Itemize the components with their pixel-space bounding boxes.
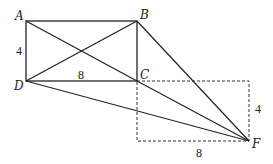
geometry-diagram: A B C D F 4 8 4 8	[0, 0, 273, 164]
dimension-label-right: 4	[255, 102, 261, 116]
point-label-c: C	[140, 68, 149, 82]
dimension-label-bottom: 8	[196, 146, 202, 160]
dimension-label-dc: 8	[78, 68, 84, 82]
point-label-f: F	[251, 137, 261, 151]
point-label-b: B	[139, 8, 149, 22]
point-label-d: D	[13, 79, 24, 93]
point-label-a: A	[14, 9, 24, 23]
dimension-label-ad: 4	[16, 44, 22, 58]
segment-cf	[137, 81, 249, 141]
